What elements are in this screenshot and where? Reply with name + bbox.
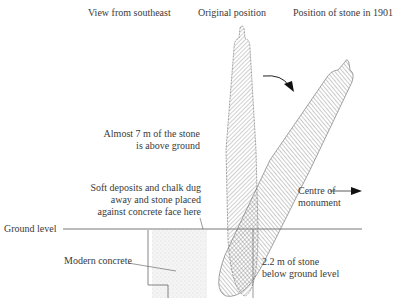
label-centre-2: monument (298, 197, 341, 209)
label-soft-deposits-1: Soft deposits and chalk dug (90, 182, 201, 194)
label-ground-level: Ground level (4, 223, 57, 235)
label-centre-1: Centre of (298, 185, 336, 197)
rotation-arrow-icon (263, 76, 294, 92)
label-below-ground-1: 2.2 m of stone (262, 256, 319, 268)
label-above-ground-2: is above ground (136, 140, 200, 152)
label-soft-deposits-2: away and stone placed (111, 194, 201, 206)
label-soft-deposits-3: against concrete face here (97, 206, 201, 218)
header-original-position: Original position (198, 7, 266, 19)
modern-concrete-block (148, 230, 207, 298)
label-below-ground-2: below ground level (262, 268, 339, 280)
label-above-ground-1: Almost 7 m of the stone (104, 128, 200, 140)
header-view-from-southeast: View from southeast (88, 7, 171, 19)
header-position-1901: Position of stone in 1901 (293, 7, 393, 19)
label-modern-concrete: Modern concrete (64, 255, 132, 267)
